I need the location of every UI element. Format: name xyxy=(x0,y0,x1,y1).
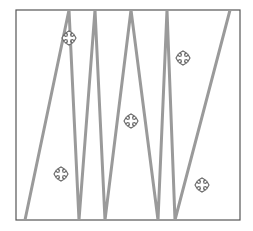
zigzag-diagram xyxy=(0,0,253,231)
